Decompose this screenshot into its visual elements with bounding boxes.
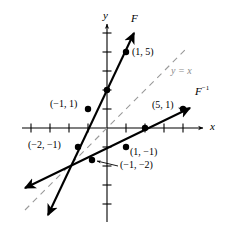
point-0-2 xyxy=(104,87,110,93)
y-axis xyxy=(103,24,112,222)
point-2-0 xyxy=(142,125,148,131)
curve-F-inverse-label: F−1 xyxy=(195,85,209,97)
point-neg1-1 xyxy=(85,106,91,112)
curve-F-line xyxy=(48,33,134,215)
label-point-1-5: (1, 5) xyxy=(132,47,154,57)
curve-F-inverse-exponent: −1 xyxy=(202,84,209,92)
label-point-neg2-neg1: (−2, −1) xyxy=(28,140,61,150)
x-axis-label: x xyxy=(210,121,215,132)
point-neg1-neg2 xyxy=(89,157,95,163)
point-1-5 xyxy=(123,49,129,55)
label-point-1-neg1: (1, −1) xyxy=(130,147,157,157)
label-point-neg1-neg2: (−1, −2) xyxy=(120,160,153,170)
x-axis xyxy=(22,124,203,133)
curve-F-inverse-base: F xyxy=(195,85,202,97)
label-point-neg1-1: (−1, 1) xyxy=(50,99,77,109)
label-point-5-1: (5, 1) xyxy=(152,100,174,110)
y-axis-label: y xyxy=(103,10,108,21)
point-5-1 xyxy=(180,106,186,112)
point-1-neg1 xyxy=(123,144,129,150)
function-inverse-graph-figure: y x F F−1 y = x (1, 5) (−1, 1) (−2, −1) … xyxy=(0,0,229,232)
curve-F-label: F xyxy=(131,13,138,24)
identity-line-y-equals-x xyxy=(25,48,187,210)
plot-canvas xyxy=(0,0,229,232)
point-neg2-neg1 xyxy=(75,144,81,150)
identity-line-label: y = x xyxy=(171,66,192,76)
